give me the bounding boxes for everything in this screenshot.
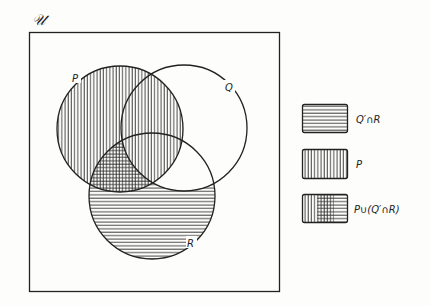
legend: Q′∩R P P∪(Q′∩R) — [303, 105, 400, 223]
legend-label-qprime-r: Q′∩R — [356, 114, 380, 125]
legend-swatch-p — [303, 150, 347, 178]
venn-diagram: 𝒰 P Q R Q′∩R P P∪(Q′∩R) — [0, 0, 430, 306]
universe-label: 𝒰 — [32, 11, 50, 29]
legend-label-union: P∪(Q′∩R) — [354, 204, 400, 215]
legend-label-p: P — [356, 159, 363, 170]
label-r: R — [187, 238, 194, 249]
label-p: P — [72, 73, 79, 84]
label-q: Q — [225, 82, 233, 93]
legend-swatch-qprime-r — [303, 105, 347, 132]
